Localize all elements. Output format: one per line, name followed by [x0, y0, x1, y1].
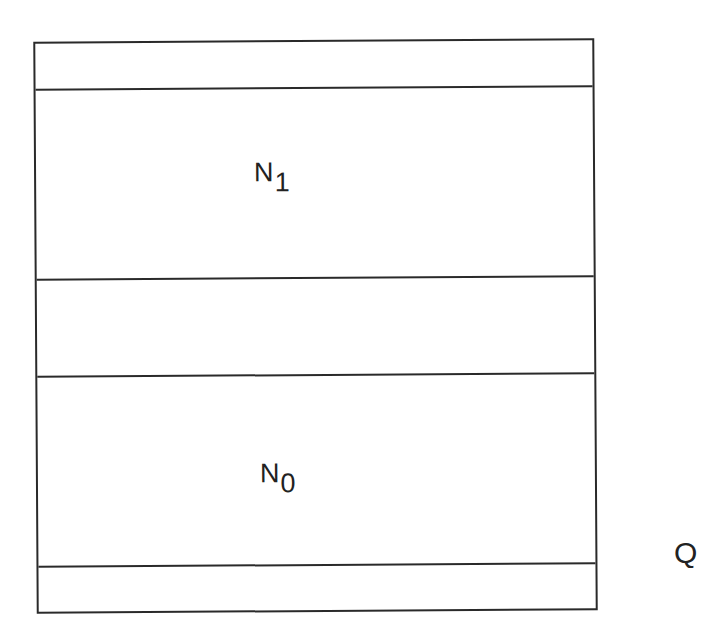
n1-label: N1	[254, 157, 290, 188]
n1-label-subscript: 1	[275, 167, 290, 197]
n0-band: N0	[37, 372, 595, 565]
top-thin-band	[35, 40, 592, 88]
bottom-thin-band	[38, 562, 595, 613]
n1-band: N1	[36, 85, 594, 278]
middle-gap-band	[37, 275, 595, 375]
n0-label-main: N	[260, 458, 280, 488]
q-label: Q	[674, 536, 697, 570]
diagram-box: N1 N0	[33, 38, 597, 613]
n0-label-subscript: 0	[280, 468, 295, 498]
n0-label: N0	[260, 458, 296, 489]
n1-label-main: N	[254, 157, 274, 187]
